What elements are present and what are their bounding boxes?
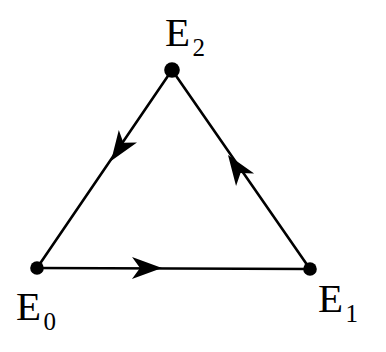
vertex-label-e1-subscript: 1 <box>346 300 359 327</box>
vertex-label-e0-base: E <box>16 283 42 329</box>
vertex-label-e0-subscript: 0 <box>44 308 57 335</box>
diagram-canvas: E2 E0 E1 <box>0 0 386 352</box>
vertex-dot-e1[interactable] <box>303 262 317 276</box>
edge-e0-e1 <box>37 257 310 279</box>
arrowhead-e2-e0-icon <box>111 130 137 161</box>
vertex-label-e2-base: E <box>165 9 191 55</box>
vertex-dot-e0[interactable] <box>30 261 44 275</box>
vertex-label-e1: E1 <box>318 278 356 319</box>
edge-e0-e1-line <box>37 268 310 269</box>
vertex-label-e2-subscript: 2 <box>193 34 206 61</box>
vertex-label-e1-base: E <box>318 275 344 321</box>
edge-e1-e2 <box>172 70 310 269</box>
vertex-label-e2: E2 <box>165 12 203 53</box>
vertex-label-e0: E0 <box>16 286 54 327</box>
edge-e2-e0-line <box>37 70 172 268</box>
vertex-dot-e2[interactable] <box>164 62 180 78</box>
edge-e2-e0 <box>37 70 172 268</box>
